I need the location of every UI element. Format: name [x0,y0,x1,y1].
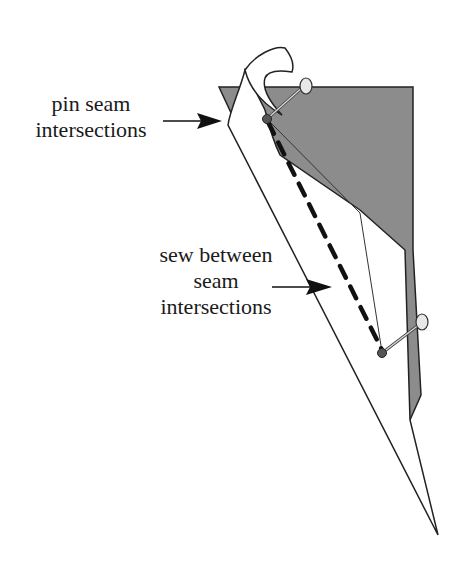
sew-label-line2: seam [140,268,292,294]
pin-seam-label: pin seam intersections [22,91,160,143]
top-pin-head-icon [300,78,312,94]
sew-label-line1: sew between [140,242,292,268]
sew-between-label: sew between seam intersections [140,242,292,320]
bottom-pin-head-icon [416,314,428,330]
pin-label-line1: pin seam [22,91,160,117]
top-pin-dot [263,115,272,124]
bottom-pin-dot [378,349,387,358]
pin-label-line2: intersections [22,117,160,143]
sew-label-line3: intersections [140,294,292,320]
